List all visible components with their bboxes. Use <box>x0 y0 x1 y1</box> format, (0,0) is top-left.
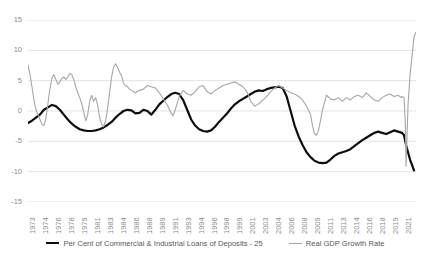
plot-svg <box>28 20 416 202</box>
y-axis: 151050-5-10-15 <box>0 20 26 202</box>
x-axis-tick-label: 2003 <box>262 217 270 234</box>
y-axis-tick-label: 15 <box>14 16 22 24</box>
x-axis: 1973197419761978197919811983198419861988… <box>28 204 416 234</box>
legend-item-loans: Per Cent of Commercial & Industrial Loan… <box>46 239 262 248</box>
y-axis-tick-label: -10 <box>11 168 22 176</box>
x-axis-tick-label: 1998 <box>223 217 231 234</box>
plot-area <box>28 20 416 202</box>
legend-label-loans: Per Cent of Commercial & Industrial Loan… <box>63 239 262 248</box>
x-axis-tick-label: 1978 <box>68 217 76 234</box>
chart-container: 151050-5-10-15 1973197419761978197919811… <box>0 0 431 256</box>
x-axis-tick-label: 1999 <box>236 217 244 234</box>
x-axis-tick-label: 2019 <box>392 217 400 234</box>
x-axis-tick-label: 1984 <box>120 217 128 234</box>
x-axis-tick-label: 1976 <box>55 217 63 234</box>
x-axis-tick-label: 1996 <box>211 217 219 234</box>
legend-swatch-gdp-icon <box>289 243 302 244</box>
x-axis-tick-label: 1983 <box>107 217 115 234</box>
x-axis-tick-label: 1974 <box>42 217 50 234</box>
gridlines <box>28 20 416 202</box>
y-axis-tick-label: 0 <box>18 107 22 115</box>
legend-item-gdp: Real GDP Growth Rate <box>289 239 385 248</box>
x-axis-tick-label: 2021 <box>405 217 413 234</box>
x-axis-tick-label: 1993 <box>185 217 193 234</box>
legend-swatch-loans-icon <box>46 242 59 244</box>
chart-legend: Per Cent of Commercial & Industrial Loan… <box>0 234 431 252</box>
x-axis-tick-label: 1986 <box>133 217 141 234</box>
x-axis-tick-label: 2001 <box>249 217 257 234</box>
series-line-gdp <box>28 32 416 166</box>
x-axis-tick-label: 1988 <box>146 217 154 234</box>
x-axis-tick-label: 2004 <box>275 217 283 234</box>
legend-label-gdp: Real GDP Growth Rate <box>306 239 385 248</box>
x-axis-tick-label: 2006 <box>288 217 296 234</box>
x-axis-tick-label: 2013 <box>340 217 348 234</box>
x-axis-tick-label: 1973 <box>29 217 37 234</box>
series-lines <box>28 32 416 170</box>
x-axis-tick-label: 1989 <box>159 217 167 234</box>
y-axis-tick-label: 10 <box>14 46 22 54</box>
x-axis-tick-label: 2011 <box>327 218 335 234</box>
y-axis-tick-label: -15 <box>11 198 22 206</box>
y-axis-tick-label: 5 <box>18 77 22 85</box>
x-axis-tick-label: 2009 <box>314 217 322 234</box>
x-axis-tick-label: 1979 <box>81 217 89 234</box>
x-axis-tick-label: 2018 <box>379 217 387 234</box>
x-axis-tick-label: 2008 <box>301 217 309 234</box>
series-line-loans <box>28 87 414 171</box>
x-axis-tick-label: 2014 <box>353 217 361 234</box>
x-axis-tick-label: 1994 <box>198 217 206 234</box>
x-axis-tick-label: 2016 <box>366 217 374 234</box>
y-axis-tick-label: -5 <box>15 137 22 145</box>
x-axis-tick-label: 1991 <box>172 217 180 234</box>
x-axis-tick-label: 1981 <box>94 217 102 234</box>
